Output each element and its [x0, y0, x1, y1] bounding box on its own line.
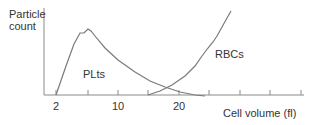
- plt-curve: [56, 29, 205, 96]
- tick-label-20: 20: [173, 100, 185, 112]
- tick-label-10: 10: [112, 100, 124, 112]
- x-axis-label: Cell volume (fl): [223, 107, 296, 119]
- tick-label-2: 2: [53, 100, 59, 112]
- y-axis-label-line2: count: [9, 20, 46, 32]
- x-axis-ticks: [56, 90, 301, 95]
- plt-label: PLts: [83, 68, 105, 80]
- y-axis-label-line1: Particle: [9, 8, 46, 20]
- y-axis-label: Particle count: [9, 8, 46, 32]
- rbc-label: RBCs: [215, 48, 244, 60]
